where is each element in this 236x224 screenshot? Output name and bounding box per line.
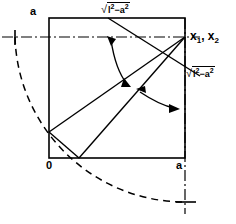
figure-canvas: a a 0 x1, x2 √l2−a2 √l2−a2 [0, 0, 236, 224]
angle-arrowhead-lower-right [169, 104, 180, 113]
angle-arc-lower [140, 92, 174, 108]
radical-top-exp2: 2 [125, 3, 129, 10]
angle-arc-upper [111, 40, 127, 84]
label-solutions-separator: , x [201, 29, 214, 43]
radical-body-top: l2−a2 [107, 2, 130, 15]
label-side-a-top: a [30, 6, 36, 17]
label-solutions: x1, x2 [190, 30, 219, 45]
angle-arrowhead-upper-bottom [121, 78, 131, 87]
segment-between-vertices [49, 132, 79, 158]
label-radical-side: √l2−a2 [186, 66, 215, 79]
square-outline [49, 18, 185, 158]
label-side-a-bottom: a [176, 160, 182, 171]
radical-side-exp2: 2 [210, 67, 214, 74]
radical-body-side: l2−a2 [192, 66, 215, 79]
ray-left-vertex-to-corner [49, 37, 185, 132]
label-solutions-x1: x [190, 29, 197, 43]
dashed-arc [15, 37, 185, 202]
radical-top-minus-a: −a [114, 5, 124, 15]
label-solutions-sub2: 2 [214, 36, 218, 45]
ray-bottom-vertex-to-corner [79, 37, 185, 158]
label-radical-top: √l2−a2 [101, 2, 130, 15]
radical-side-minus-a: −a [199, 69, 209, 79]
label-origin: 0 [46, 160, 52, 171]
angle-arrowhead-upper-top [107, 36, 116, 46]
